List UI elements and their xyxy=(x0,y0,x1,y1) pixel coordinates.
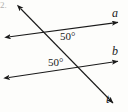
geometry-figure: 2. a b t 50° 50° xyxy=(0,0,128,112)
line-t xyxy=(21,9,113,103)
problem-number: 2. xyxy=(0,1,7,10)
line-t-label: t xyxy=(106,93,109,105)
line-b xyxy=(9,61,118,77)
line-a-label: a xyxy=(112,7,118,19)
line-b-label: b xyxy=(112,45,118,57)
angle-label-upper: 50° xyxy=(60,31,75,42)
angle-label-lower: 50° xyxy=(48,57,63,68)
